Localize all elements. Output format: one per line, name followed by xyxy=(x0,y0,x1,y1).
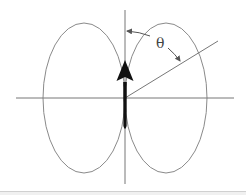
theta-label: θ xyxy=(156,35,164,51)
bottom-border xyxy=(0,191,246,195)
angle-arc-lower xyxy=(168,48,180,61)
dipole-diagram: θ xyxy=(0,0,246,195)
